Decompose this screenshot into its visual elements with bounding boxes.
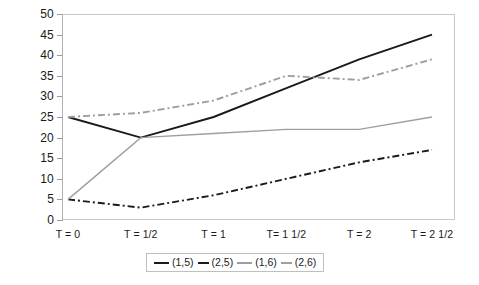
legend-item[interactable]: (1,6) — [235, 257, 279, 268]
y-axis-label: 40 — [0, 49, 54, 61]
y-axis-tick — [57, 76, 62, 77]
x-axis-label: T = 2 1/2 — [411, 228, 453, 240]
y-axis-tick — [57, 158, 62, 159]
y-axis-tick — [57, 14, 62, 15]
line-chart: 50454035302520151050 T = 0T = 1/2T = 1T=… — [0, 0, 479, 285]
y-axis-label: 20 — [0, 132, 54, 144]
y-axis-label: 5 — [0, 193, 54, 205]
x-axis-label: T = 0 — [56, 228, 81, 240]
x-axis-label: T = 2 — [347, 228, 372, 240]
y-axis-tick — [57, 179, 62, 180]
y-axis-label: 45 — [0, 29, 54, 41]
y-axis-tick — [57, 220, 62, 221]
x-axis-label: T = 1/2 — [124, 228, 158, 240]
y-axis-tick — [57, 35, 62, 36]
y-axis-tick — [57, 117, 62, 118]
y-axis-tick — [57, 138, 62, 139]
plot-area-frame — [62, 14, 455, 220]
y-axis-label: 50 — [0, 8, 54, 20]
legend-item[interactable]: (2,5) — [196, 257, 236, 268]
y-axis-label: 25 — [0, 111, 54, 123]
y-axis-label: 30 — [0, 90, 54, 102]
y-axis-line — [62, 14, 63, 221]
y-axis-tick — [57, 55, 62, 56]
y-axis-tick — [57, 199, 62, 200]
chart-legend: (1,5)(2,5)(1,6)(2,6) — [146, 253, 324, 272]
y-axis-label: 15 — [0, 152, 54, 164]
x-axis-label: T= 1 1/2 — [267, 228, 307, 240]
legend-item[interactable]: (1,5) — [152, 257, 196, 268]
legend-label: (2,6) — [295, 257, 317, 268]
legend-item[interactable]: (2,6) — [279, 257, 319, 268]
legend-label: (1,5) — [172, 257, 194, 268]
y-axis-label: 35 — [0, 70, 54, 82]
x-axis-label: T = 1 — [201, 228, 226, 240]
legend-label: (2,5) — [212, 257, 234, 268]
legend-label: (1,6) — [255, 257, 277, 268]
legend-swatch-icon — [198, 262, 209, 264]
y-axis-label: 10 — [0, 173, 54, 185]
y-axis-tick — [57, 96, 62, 97]
legend-swatch-icon — [237, 262, 252, 264]
y-axis-label: 0 — [0, 214, 54, 226]
legend-swatch-icon — [281, 262, 292, 264]
legend-swatch-icon — [154, 262, 169, 264]
